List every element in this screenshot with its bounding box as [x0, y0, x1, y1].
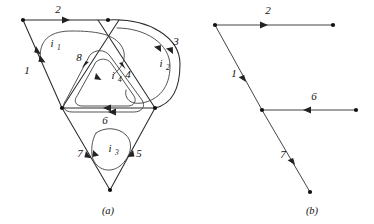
arrow-mesh-i4 — [94, 73, 101, 80]
node-b-top-left — [213, 23, 217, 27]
arrow-mesh-i3 — [92, 150, 99, 157]
arrow-b-branch-7 — [288, 158, 295, 165]
branch-label-5: 5 — [136, 147, 142, 159]
panel-b-nodes — [213, 23, 358, 194]
figure-root: 2 1 8 4 3 6 7 5 i 1 i 2 i — [0, 0, 374, 224]
mesh-label-i3-sub: 3 — [114, 148, 119, 157]
panel-a-mesh-labels: i 1 i 2 i 3 i 4 — [50, 37, 170, 157]
branch-label-4: 4 — [125, 68, 131, 80]
node-bottom-apex — [108, 188, 112, 192]
panel-a-edges — [23, 20, 180, 190]
branch-label-3: 3 — [172, 35, 179, 47]
edge-b-branch-1 — [215, 25, 262, 110]
node-bottom-left — [60, 106, 64, 110]
mesh-label-i3: i 3 — [108, 142, 119, 157]
node-b-middle — [260, 108, 264, 112]
panel-b-caption: (b) — [306, 205, 319, 217]
edge-branch-4 — [98, 20, 155, 108]
panel-b-edges — [215, 25, 356, 192]
branch-label-8: 8 — [76, 51, 82, 63]
node-bottom-right — [153, 106, 157, 110]
mesh-label-i2: i 2 — [159, 57, 170, 72]
node-top-center — [106, 18, 110, 22]
panel-a-caption: (a) — [102, 205, 115, 217]
branch-label-b1: 1 — [231, 67, 237, 79]
node-b-top-right — [331, 23, 335, 27]
mesh-label-i4-sub: 4 — [118, 75, 122, 84]
mesh-label-i3-base: i — [108, 142, 111, 154]
panel-b: 2 1 6 7 (b) — [213, 4, 358, 217]
panel-a: 2 1 8 4 3 6 7 5 i 1 i 2 i — [21, 3, 180, 217]
branch-label-b2: 2 — [265, 4, 271, 16]
arrow-mesh-i2 — [154, 45, 161, 52]
branch-label-1: 1 — [24, 64, 30, 76]
panel-b-branch-labels: 2 1 6 7 — [231, 4, 317, 160]
edge-branch-8 — [62, 20, 119, 108]
mesh-label-i1: i 1 — [50, 37, 60, 52]
node-top-left — [21, 18, 25, 22]
arrow-b-branch-6 — [303, 107, 311, 114]
node-b-bottom — [308, 190, 312, 194]
branch-label-7: 7 — [77, 147, 83, 159]
arrow-b-branch-1 — [239, 75, 246, 82]
edge-b-branch-7 — [262, 110, 310, 192]
mesh-label-i2-base: i — [159, 57, 162, 69]
circuit-graph-figure: 2 1 8 4 3 6 7 5 i 1 i 2 i — [0, 0, 374, 224]
branch-label-6: 6 — [102, 114, 108, 126]
node-b-right — [354, 108, 358, 112]
panel-b-arrowheads — [239, 22, 311, 165]
branch-label-b7: 7 — [280, 148, 286, 160]
arrow-branch-2 — [62, 17, 70, 24]
mesh-label-i4-base: i — [111, 69, 114, 81]
mesh-label-i1-base: i — [50, 37, 53, 49]
branch-label-2: 2 — [55, 3, 61, 15]
branch-label-b6: 6 — [311, 90, 317, 102]
arrow-b-branch-2 — [260, 22, 268, 29]
mesh-label-i2-sub: 2 — [166, 63, 170, 72]
mesh-label-i1-sub: 1 — [57, 43, 61, 52]
panel-a-nodes — [21, 18, 157, 192]
